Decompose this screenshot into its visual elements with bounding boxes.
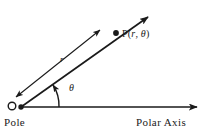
pole-label: Pole	[4, 117, 25, 128]
radius-dimension-arrow	[16, 30, 100, 97]
point-p-label: P(r, θ)	[122, 29, 149, 39]
point-p-close-paren: )	[146, 28, 150, 39]
point-p-dot	[113, 30, 119, 36]
polar-coordinate-diagram: P(r, θ) r θ Pole Polar Axis	[0, 0, 208, 137]
angle-label: θ	[69, 83, 74, 93]
radius-label: r	[60, 55, 64, 64]
pole-vertex-dot	[18, 104, 23, 109]
pole-open-circle	[8, 102, 16, 110]
angle-arc	[53, 85, 59, 107]
polar-axis-label: Polar Axis	[136, 117, 186, 128]
